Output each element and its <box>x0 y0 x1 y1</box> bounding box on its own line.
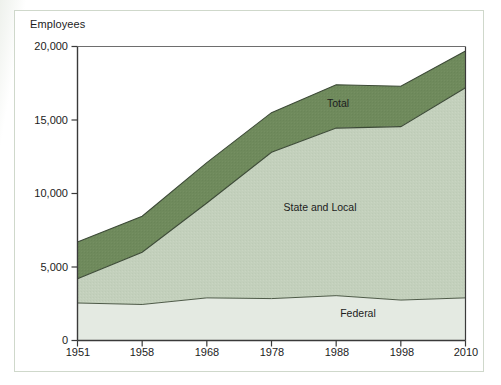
x-tick-label: 1978 <box>242 346 302 358</box>
x-tick-label: 2010 <box>436 346 496 358</box>
y-tick-label: 10,000 <box>14 187 68 199</box>
y-tick-label: 20,000 <box>14 40 68 52</box>
series-annotation-federal: Federal <box>340 307 376 319</box>
x-tick-label: 1998 <box>372 346 432 358</box>
y-tick-label: 0 <box>14 334 68 346</box>
series-bands <box>78 51 466 341</box>
x-tick-label: 1951 <box>48 346 108 358</box>
y-tick-label: 15,000 <box>14 114 68 126</box>
x-tick-label: 1988 <box>307 346 367 358</box>
x-tick-label: 1968 <box>177 346 237 358</box>
chart-page: Employees 0 5,000 10,000 15 <box>0 0 501 385</box>
y-tick-label: 5,000 <box>14 261 68 273</box>
series-annotation-total: Total <box>327 97 349 109</box>
stacked-area-chart <box>0 0 501 385</box>
series-annotation-state-and-local: State and Local <box>284 201 357 213</box>
x-tick-label: 1958 <box>112 346 172 358</box>
plot-area: 0 5,000 10,000 15,000 20,000 1951 1958 1… <box>0 0 501 385</box>
